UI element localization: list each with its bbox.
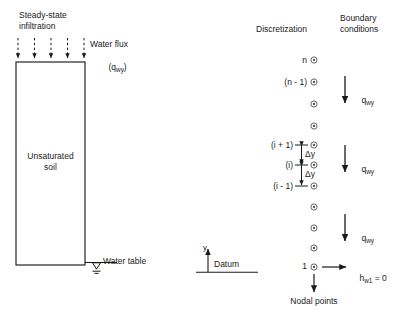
node-marker xyxy=(311,245,317,251)
figure-soil-column-discretization: Steady-state infiltration Water flux (qw… xyxy=(0,0,399,313)
water-table-label: Water table xyxy=(103,256,146,267)
node-marker xyxy=(311,264,317,270)
node-marker xyxy=(311,101,317,107)
node-marker xyxy=(311,162,317,168)
delta-y-label-lower: Δy xyxy=(305,169,315,180)
node-marker xyxy=(311,142,317,148)
y-axis-label: y xyxy=(203,243,207,254)
head-boundary-label: hw1 = 0 xyxy=(350,262,387,295)
steady-state-infiltration-label: Steady-state infiltration xyxy=(19,10,67,31)
boundary-flux-label-bottom: qwy xyxy=(352,222,374,255)
node-marker xyxy=(311,204,317,210)
unsaturated-soil-label: Unsaturated soil xyxy=(16,151,85,172)
flux-subscript: wy xyxy=(366,168,374,175)
datum-label: Datum xyxy=(214,259,239,270)
node-label-1: 1 xyxy=(286,261,307,272)
node-label-n-minus-1: (n - 1) xyxy=(256,77,307,88)
head-value: = 0 xyxy=(372,273,386,283)
head-subscript: w1 xyxy=(364,277,372,284)
water-flux-symbol-open: (q xyxy=(108,62,116,72)
boundary-flux-label-top: qwy xyxy=(352,84,374,117)
node-marker xyxy=(311,225,317,231)
node-marker xyxy=(311,183,317,189)
node-label-i-plus-1: (i + 1) xyxy=(246,140,293,151)
node-label-i-minus-1: (i - 1) xyxy=(246,181,293,192)
node-label-n: n xyxy=(266,55,307,66)
water-flux-symbol: (qwy) xyxy=(99,51,127,84)
nodal-points-label: Nodal points xyxy=(279,296,349,307)
node-marker xyxy=(311,123,317,129)
nodal-points-column xyxy=(311,57,317,270)
flux-subscript: wy xyxy=(366,99,374,106)
boundary-conditions-header: Boundary conditions xyxy=(340,13,378,34)
node-marker xyxy=(311,57,317,63)
node-label-i: (i) xyxy=(246,160,293,171)
infiltration-arrows xyxy=(18,38,84,58)
flux-subscript: wy xyxy=(366,237,374,244)
boundary-flux-label-mid: qwy xyxy=(352,153,374,186)
water-flux-label: Water flux xyxy=(90,39,128,50)
water-flux-symbol-close: ) xyxy=(124,62,127,72)
node-marker xyxy=(311,79,317,85)
delta-y-label-upper: Δy xyxy=(305,149,315,160)
discretization-header: Discretization xyxy=(256,24,307,35)
water-flux-symbol-sub: wy xyxy=(116,66,124,73)
